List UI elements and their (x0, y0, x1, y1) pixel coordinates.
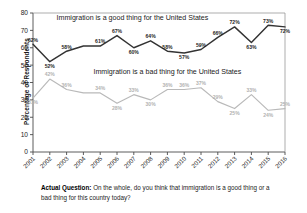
data-point-label: 58% (162, 44, 173, 50)
series-inline-label: Immigration is a good thing for the Unit… (57, 14, 209, 22)
data-point-label: 63% (246, 44, 257, 50)
data-point-label: 66% (213, 30, 224, 36)
x-tick-label: 2008 (139, 154, 154, 169)
data-point-label: 64% (145, 33, 156, 39)
caption-lead: Actual Question: (41, 184, 91, 191)
x-tick-label: 2006 (106, 154, 121, 169)
x-tick-label: 2001 (22, 154, 37, 169)
data-point-label: 36% (179, 82, 190, 88)
x-tick-label: 2007 (122, 154, 137, 169)
data-point-label: 58% (61, 44, 72, 50)
x-tick-label: 2004 (72, 154, 87, 169)
data-point-label: 37% (196, 80, 207, 86)
data-point-label: 57% (179, 54, 190, 60)
point-labels-good-thing: 62%52%58%61%67%60%64%58%57%59%66%72%63%7… (28, 18, 291, 69)
data-point-label: 59% (196, 42, 207, 48)
data-point-label: 28% (112, 105, 123, 111)
data-point-label: 30% (146, 101, 157, 107)
data-point-label: 25% (230, 110, 241, 116)
chart-caption: Actual Question: On the whole, do you th… (41, 183, 277, 203)
line-chart: 0102030405060708020012002200320042005200… (0, 0, 307, 213)
data-point-label: 33% (246, 87, 257, 93)
data-point-label: 34% (95, 85, 106, 91)
data-point-label: 72% (229, 19, 240, 25)
data-point-label: 36% (62, 82, 73, 88)
x-tick-label: 2009 (156, 154, 171, 169)
series-inline-label: Immigration is a bad thing for the Unite… (93, 68, 241, 76)
x-tick-label: 2013 (223, 154, 238, 169)
data-point-label: 67% (112, 28, 123, 34)
x-tick-label: 2011 (190, 154, 205, 169)
chart-screenshot: 0102030405060708020012002200320042005200… (0, 0, 307, 213)
data-point-label: 31% (28, 99, 39, 105)
x-tick-label: 2005 (89, 154, 104, 169)
data-point-label: 60% (129, 49, 140, 55)
data-point-label: 61% (95, 38, 106, 44)
x-tick-label: 2012 (206, 154, 221, 169)
series-annotations: Immigration is a good thing for the Unit… (57, 14, 242, 76)
data-point-label: 24% (263, 112, 274, 118)
x-tick-label: 2002 (38, 154, 53, 169)
data-point-label: 72% (280, 28, 291, 34)
x-tick-label: 2016 (274, 154, 289, 169)
x-axis: 2001200220032004200520062007200820092010… (22, 152, 289, 169)
y-axis-title: Percentage of Respondents (23, 12, 30, 152)
data-point-label: 42% (45, 71, 56, 77)
x-tick-label: 2003 (55, 154, 70, 169)
x-tick-label: 2010 (173, 154, 188, 169)
data-point-label: 36% (162, 82, 173, 88)
data-point-label: 73% (263, 18, 274, 24)
data-point-label: 52% (45, 63, 56, 69)
chart-canvas: 0102030405060708020012002200320042005200… (0, 0, 307, 213)
data-point-label: 25% (280, 101, 291, 107)
x-tick-label: 2014 (240, 154, 255, 169)
x-tick-label: 2015 (257, 154, 272, 169)
data-point-label: 33% (129, 87, 140, 93)
data-point-label: 29% (213, 94, 224, 100)
